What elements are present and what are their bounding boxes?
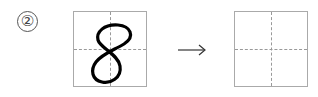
target-grid-box[interactable] xyxy=(234,11,308,87)
vertical-guide xyxy=(271,12,272,86)
handwritten-eight-glyph xyxy=(74,12,148,88)
exercise-number: ② xyxy=(17,11,38,32)
source-grid-box xyxy=(73,11,147,87)
right-arrow-icon xyxy=(177,43,207,57)
